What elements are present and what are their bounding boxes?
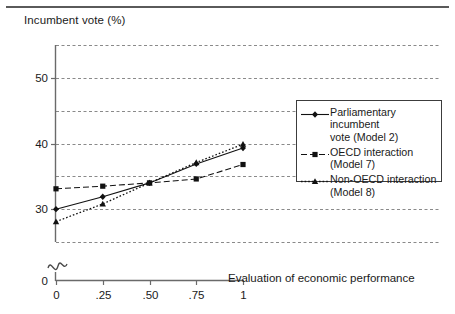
y-tick-group: 0304050: [35, 72, 56, 287]
y-tick-label: 40: [35, 138, 48, 150]
square-marker: [312, 152, 317, 157]
diamond-marker: [100, 193, 106, 199]
square-marker: [240, 162, 245, 167]
triangle-marker: [100, 201, 106, 207]
diamond-marker: [312, 111, 318, 117]
y-tick-label: 50: [35, 72, 48, 84]
legend-label: Non-OECD interaction (Model 8): [330, 173, 436, 198]
axes-group: [48, 45, 243, 281]
square-marker: [53, 186, 58, 191]
legend-item: Non-OECD interaction (Model 8): [300, 173, 438, 198]
y-tick-label: 0: [42, 275, 48, 287]
legend-label: OECD interaction (Model 7): [330, 146, 413, 171]
legend-swatch-triangle-marker: [300, 174, 330, 187]
diamond-marker: [53, 206, 59, 212]
figure-container: Incumbent vote (%) 0304050 0.25.50.751 P…: [0, 0, 455, 314]
x-tick-label: 1: [240, 289, 246, 301]
x-tick-label: .25: [96, 289, 112, 301]
legend-swatch-diamond-marker: [300, 107, 330, 120]
legend-item: OECD interaction (Model 7): [300, 146, 438, 171]
triangle-marker: [240, 141, 246, 147]
axis-break-squiggle: [48, 263, 67, 270]
legend-label: Parliamentary incumbent vote (Model 2): [330, 106, 438, 143]
square-marker: [194, 176, 199, 181]
x-tick-label: .75: [189, 289, 205, 301]
x-axis-title: Evaluation of economic performance: [228, 272, 415, 286]
square-marker: [100, 184, 105, 189]
series-line: [56, 148, 243, 209]
y-tick-label: 30: [35, 203, 48, 215]
x-tick-label: 0: [53, 289, 59, 301]
triangle-marker: [53, 218, 59, 224]
x-tick-label: .50: [143, 289, 159, 301]
legend-entries: Parliamentary incumbent vote (Model 2)OE…: [296, 100, 442, 182]
legend-item: Parliamentary incumbent vote (Model 2): [300, 106, 438, 143]
data-series-group: [53, 141, 246, 224]
triangle-marker: [193, 159, 199, 165]
x-tick-group: 0.25.50.751: [53, 280, 246, 301]
legend-swatch-square-marker: [300, 147, 330, 160]
